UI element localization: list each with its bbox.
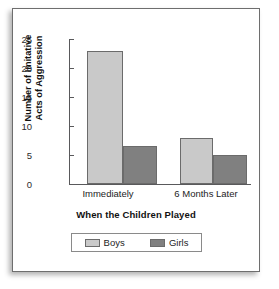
bar-girls-6-months-later[interactable] xyxy=(213,155,247,184)
x-tick-label-6-months-later: 6 Months Later xyxy=(161,189,251,199)
y-tick-label-15: 15 xyxy=(21,93,32,103)
x-tick-label-immediately: Immediately xyxy=(68,189,148,199)
plot-area: Number of Imitative Acts of Aggression 0… xyxy=(13,9,259,271)
y-tick-0 xyxy=(70,184,74,185)
legend-swatch-girls-icon xyxy=(150,239,165,247)
legend-entry-girls[interactable]: Girls xyxy=(150,238,189,248)
bar-girls-immediately[interactable] xyxy=(123,146,157,184)
chart-legend: Boys Girls xyxy=(71,233,202,252)
y-tick-label-20: 20 xyxy=(21,64,32,74)
x-axis-line xyxy=(69,184,251,185)
chart-card: Number of Imitative Acts of Aggression 0… xyxy=(12,8,260,272)
bar-boys-6-months-later[interactable] xyxy=(180,138,213,184)
legend-label-girls: Girls xyxy=(169,238,189,248)
y-tick-label-5: 5 xyxy=(27,151,32,161)
x-axis-title: When the Children Played xyxy=(13,210,259,220)
y-tick-label-0: 0 xyxy=(27,180,32,190)
y-axis-title-line2: Acts of Aggression xyxy=(34,13,45,143)
legend-entry-boys[interactable]: Boys xyxy=(85,238,125,248)
y-tick-label-25: 25 xyxy=(21,35,32,45)
y-tick-label-10: 10 xyxy=(21,122,32,132)
bars-layer xyxy=(69,39,251,184)
figure-root: Number of Imitative Acts of Aggression 0… xyxy=(0,0,279,289)
legend-label-boys: Boys xyxy=(104,238,125,248)
bar-boys-immediately[interactable] xyxy=(87,51,123,184)
legend-swatch-boys-icon xyxy=(85,239,100,247)
